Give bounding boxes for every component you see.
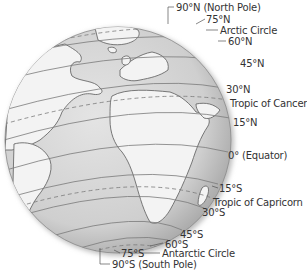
label-lat-15s: 15°S bbox=[219, 183, 242, 194]
label-tropic-of-capricorn: Tropic of Capricorn bbox=[213, 197, 303, 208]
label-antarctic-circle: Antarctic Circle bbox=[162, 248, 235, 259]
label-arctic-circle: Arctic Circle bbox=[220, 25, 277, 36]
label-lat-75n: 75°N bbox=[206, 14, 230, 25]
label-lat-60n: 60°N bbox=[228, 36, 252, 47]
british-isles bbox=[122, 56, 130, 65]
label-lat-75s: 75°S bbox=[121, 248, 144, 259]
lat-75n-leader bbox=[196, 19, 205, 24]
label-lat-45n: 45°N bbox=[240, 58, 264, 69]
label-tropic-of-cancer: Tropic of Cancer bbox=[230, 98, 307, 109]
north-pole-leader bbox=[168, 7, 174, 24]
label-lat-30n: 30°N bbox=[226, 84, 250, 95]
label-lat-15n: 15°N bbox=[233, 117, 257, 128]
label-south-pole: 90°S (South Pole) bbox=[112, 259, 197, 270]
label-equator: 0° (Equator) bbox=[228, 150, 287, 161]
globe-illustration bbox=[0, 0, 307, 271]
label-north-pole: 90°N (North Pole) bbox=[176, 2, 261, 13]
iceland bbox=[108, 47, 116, 53]
label-lat-30s: 30°S bbox=[202, 207, 225, 218]
